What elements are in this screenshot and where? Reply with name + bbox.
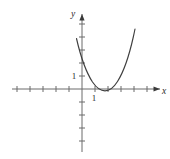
plot-canvas: y x 1 1 xyxy=(0,0,170,159)
y-tick-label-one: 1 xyxy=(72,71,77,81)
x-tick-label-one: 1 xyxy=(92,93,97,103)
x-axis-group xyxy=(12,86,160,92)
y-axis-label: y xyxy=(70,9,76,19)
parabola-curve xyxy=(77,29,136,91)
x-axis-label: x xyxy=(161,86,167,96)
y-axis-arrow-icon xyxy=(79,14,84,21)
parabola-figure: y x 1 1 xyxy=(0,0,170,159)
x-axis-arrow-icon xyxy=(154,86,161,91)
y-axis-group xyxy=(79,14,85,152)
